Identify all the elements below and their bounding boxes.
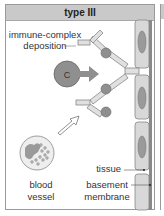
blood-vessel-icon [20, 136, 54, 170]
deposition-label: deposition [23, 40, 66, 51]
blood-label: blood [29, 179, 52, 190]
basement-label: basement [86, 179, 128, 190]
membrane-label: membrane [84, 191, 129, 202]
complement-label: C [64, 70, 71, 80]
hypersensitivity-diagram: C immune-complex deposition tissue basem… [0, 0, 164, 216]
vessel-label: vessel [28, 191, 55, 202]
basement-membrane [149, 20, 152, 210]
antigen-icon [101, 107, 111, 117]
complement-icon: C [54, 61, 99, 87]
antigen-icon [101, 48, 111, 58]
immune-complex-label: immune-complex [9, 29, 82, 40]
migration-arrow-icon [58, 116, 79, 135]
antigen-icon [101, 84, 111, 94]
tissue-cells [135, 20, 149, 210]
tissue-label: tissue [96, 163, 121, 174]
